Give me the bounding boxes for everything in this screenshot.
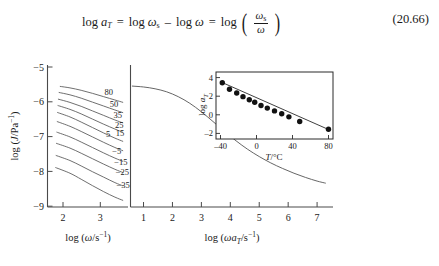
inset-ytick-label--2: –2 — [204, 128, 214, 138]
isotherm-label-80: 80 — [104, 87, 113, 97]
master-xtick-label-7: 7 — [315, 212, 320, 223]
inset-point-6 — [258, 103, 263, 108]
left-paren: ( — [241, 12, 246, 33]
inset-xtick-label-0: 0 — [254, 141, 258, 151]
isotherms-x-axis-label: log (ω/s−1) — [65, 230, 111, 244]
isotherms-y-axis-label: log (J/Pa−1) — [7, 111, 21, 161]
isotherm-label-35: 35 — [113, 110, 122, 120]
inset-xtick-label-80: 80 — [324, 141, 333, 151]
shift-factor-inset: –4004080 420–2 log aT T/°C — [197, 72, 333, 162]
isotherm-curve--35 — [55, 167, 123, 200]
equation-term2-omega: ω — [195, 15, 204, 30]
inset-point-2 — [234, 90, 239, 95]
isotherm-label--25: −25 — [116, 167, 129, 177]
isotherms-x-tick-labels: 2 3 — [61, 212, 103, 223]
ytick--5: −5 — [33, 62, 44, 73]
figure-panel: −5 −6 −7 −8 −9 2 3 log (J/Pa−1) log (ω/s… — [0, 55, 439, 266]
isotherms-y-ticks — [48, 67, 53, 206]
master-xtick-label-6: 6 — [286, 212, 291, 223]
ytick--9: −9 — [33, 201, 44, 212]
fraction-denominator: ω — [254, 23, 268, 36]
isotherm-label--35: −35 — [116, 180, 129, 190]
inset-y-axis-label: log aT — [197, 94, 209, 116]
svg-text:log (J/Pa−1): log (J/Pa−1) — [7, 111, 21, 161]
isotherm-label-15: 15 — [116, 128, 125, 138]
inset-point-8 — [272, 108, 277, 113]
inset-point-7 — [265, 105, 270, 110]
equation-term3-log: log — [221, 15, 237, 30]
isotherm-label--5: −5 — [112, 146, 121, 156]
equation-term1-log: log — [129, 15, 145, 30]
isotherms-y-tick-labels: −5 −6 −7 −8 −9 — [33, 62, 44, 212]
isotherm-label-5: 5 — [106, 129, 110, 139]
equation-term1-omega-s: ωs — [148, 15, 160, 30]
isotherm-label-group: 80503525155−5−15−25−35 — [104, 87, 129, 190]
isotherm-curve--25 — [56, 155, 123, 186]
isotherm-label--15: −15 — [114, 157, 127, 167]
inset-ytick-label-4: 4 — [209, 73, 214, 83]
ytick--7: −7 — [33, 131, 44, 142]
equation-number: (20.66) — [393, 12, 429, 27]
ytick--6: −6 — [33, 96, 44, 107]
inset-point-4 — [247, 97, 252, 102]
master-xtick-label-4: 4 — [228, 212, 233, 223]
inset-x-tick-labels: –4004080 — [213, 141, 333, 151]
inset-point-10 — [286, 114, 291, 119]
inset-point-11 — [297, 119, 302, 124]
isotherms-x-ticks — [63, 202, 100, 207]
equation-lhs-log: log — [82, 15, 98, 30]
figure-svg: −5 −6 −7 −8 −9 2 3 log (J/Pa−1) log (ω/s… — [0, 55, 439, 266]
xtick-2: 2 — [61, 212, 66, 223]
master-x-tick-labels: 1234567 — [141, 212, 320, 223]
equation-block: log aT = log ωs – log ω = log ( ωs ω ) (… — [0, 0, 439, 52]
equation-equals-2: = — [207, 15, 218, 30]
inset-x-axis-label: T/°C — [265, 152, 282, 162]
equation-lhs-variable: aT — [101, 15, 112, 30]
equation-equals-1: = — [115, 15, 126, 30]
xtick-3: 3 — [98, 212, 103, 223]
inset-point-12 — [326, 127, 331, 132]
equation-term2-log: log — [176, 15, 192, 30]
isotherms-panel: −5 −6 −7 −8 −9 2 3 log (J/Pa−1) log (ω/s… — [7, 62, 130, 245]
master-xtick-label-2: 2 — [170, 212, 175, 223]
inset-ytick-label-2: 2 — [209, 91, 213, 101]
equation-minus: – — [163, 15, 173, 30]
right-paren: ) — [275, 12, 280, 33]
ytick--8: −8 — [33, 166, 44, 177]
master-x-ticks — [144, 202, 318, 207]
inset-point-9 — [279, 111, 284, 116]
equation-expression: log aT = log ωs – log ω = log ( ωs ω ) — [82, 10, 282, 36]
inset-point-0 — [220, 80, 225, 85]
inset-point-1 — [227, 87, 232, 92]
equation-fraction: ωs ω — [252, 10, 269, 36]
isotherm-label-50: 50 — [110, 99, 119, 109]
svg-text:log aT: log aT — [197, 94, 209, 116]
master-xtick-label-3: 3 — [199, 212, 204, 223]
inset-xtick-label--40: –40 — [213, 141, 227, 151]
master-x-axis-label: log (ωaT/s−1) — [205, 230, 260, 246]
inset-ytick-label-0: 0 — [209, 110, 213, 120]
master-xtick-label-1: 1 — [141, 212, 146, 223]
master-xtick-label-5: 5 — [257, 212, 262, 223]
inset-point-5 — [252, 100, 257, 105]
inset-point-3 — [240, 94, 245, 99]
fraction-numerator: ωs — [252, 10, 269, 23]
inset-xtick-label-40: 40 — [288, 141, 297, 151]
